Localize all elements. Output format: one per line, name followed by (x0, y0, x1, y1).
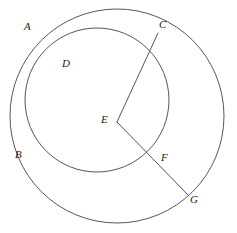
inner-circle (25, 28, 169, 172)
point-label-b: B (15, 149, 22, 160)
diagram-canvas (0, 0, 237, 233)
outer-circle (10, 9, 224, 223)
geometry-diagram: A C D E B F G (0, 0, 237, 233)
point-label-c: C (159, 19, 166, 30)
point-label-d: D (62, 58, 70, 69)
point-label-a: A (24, 21, 31, 32)
point-label-f: F (161, 152, 168, 163)
segment-e-to-c (117, 33, 158, 122)
point-label-g: G (190, 194, 198, 205)
point-label-e: E (101, 114, 108, 125)
segment-e-to-g (117, 122, 189, 196)
